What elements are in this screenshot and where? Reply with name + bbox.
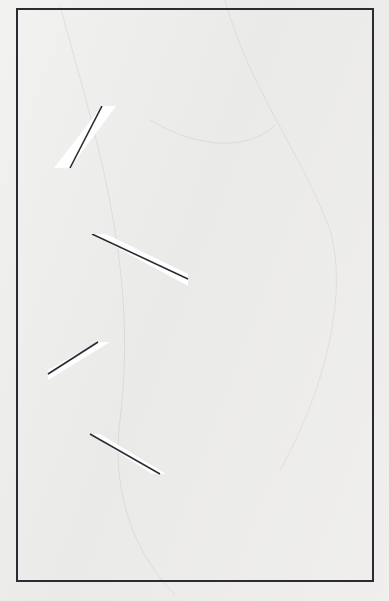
diagram-frame: CORPS (2–4 divisions, 20,000–30,000 men)…	[16, 8, 374, 582]
connector-corps-to-division	[46, 106, 164, 176]
unit-organization-diagram: CORPS (2–4 divisions, 20,000–30,000 men)…	[0, 0, 389, 601]
connector-brigade-to-regiment	[40, 340, 160, 388]
connector-regiment-to-company	[56, 430, 186, 486]
connector-division-to-brigade	[80, 234, 200, 290]
